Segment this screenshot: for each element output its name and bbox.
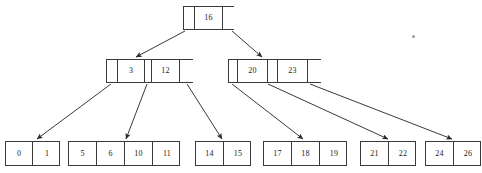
btree-node-leaf-6: 2426 xyxy=(425,141,481,166)
btree-pointer-cell xyxy=(229,60,238,82)
btree-key-cell: 20 xyxy=(238,60,268,82)
btree-pointer-cell xyxy=(223,7,235,29)
btree-node-internal-left: 312 xyxy=(106,59,193,83)
btree-pointer-cell xyxy=(268,60,278,82)
btree-pointer-cell xyxy=(107,60,118,82)
btree-key-cell: 26 xyxy=(454,142,482,165)
btree-node-internal-right: 2023 xyxy=(228,59,321,83)
btree-edge-left-to-leaf3 xyxy=(187,84,222,139)
btree-key-cell: 11 xyxy=(153,142,181,165)
btree-node-root: 16 xyxy=(183,6,234,30)
btree-key-cell: 1 xyxy=(33,142,61,165)
btree-key-cell: 5 xyxy=(69,142,97,165)
btree-key-cell: 19 xyxy=(320,142,348,165)
btree-pointer-cell xyxy=(180,60,194,82)
btree-node-leaf-2: 561011 xyxy=(68,141,180,166)
btree-key-cell: 18 xyxy=(292,142,320,165)
btree-edge-right-to-leaf6 xyxy=(310,84,452,139)
btree-edge-root-to-left xyxy=(136,31,185,57)
btree-key-cell: 24 xyxy=(426,142,454,165)
btree-diagram: 16312202301561011141517181921222426 xyxy=(0,0,482,173)
btree-key-cell: 0 xyxy=(6,142,33,165)
btree-key-cell: 16 xyxy=(195,7,223,29)
btree-key-cell: 12 xyxy=(152,60,180,82)
btree-key-cell: 17 xyxy=(264,142,292,165)
btree-key-cell: 6 xyxy=(97,142,125,165)
btree-key-cell: 15 xyxy=(224,142,252,165)
btree-key-cell: 23 xyxy=(278,60,308,82)
btree-edge-right-to-leaf5 xyxy=(268,84,388,139)
btree-pointer-cell xyxy=(308,60,322,82)
btree-edge-root-to-right xyxy=(232,31,262,57)
btree-node-leaf-4: 171819 xyxy=(263,141,347,166)
scan-speck xyxy=(412,35,415,38)
btree-key-cell: 10 xyxy=(125,142,153,165)
btree-key-cell: 14 xyxy=(196,142,224,165)
btree-node-leaf-5: 2122 xyxy=(360,141,416,166)
btree-pointer-cell xyxy=(184,7,195,29)
btree-node-leaf-1: 01 xyxy=(5,141,60,166)
btree-key-cell: 21 xyxy=(361,142,389,165)
btree-edge-left-to-leaf1 xyxy=(37,84,111,139)
btree-pointer-cell xyxy=(145,60,152,82)
btree-edge-right-to-leaf4 xyxy=(232,84,303,139)
btree-edge-left-to-leaf2 xyxy=(126,84,147,139)
tree-edges xyxy=(37,31,452,139)
btree-key-cell: 22 xyxy=(389,142,417,165)
btree-key-cell: 3 xyxy=(118,60,145,82)
btree-node-leaf-3: 1415 xyxy=(195,141,251,166)
